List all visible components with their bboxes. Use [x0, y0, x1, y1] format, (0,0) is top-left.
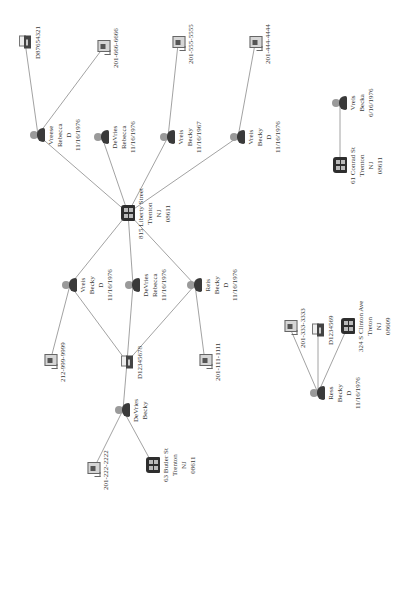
- node-label: ReisBeckyD11/16/1976: [204, 269, 240, 301]
- node-label-line: 08609: [384, 300, 393, 351]
- edge-addr_liberty-p_devries_rebecca_mid: [128, 213, 133, 285]
- node-label: DeVriesBecky: [132, 399, 150, 422]
- person-icon: [125, 277, 141, 293]
- building-icon: [341, 318, 355, 334]
- telephone-icon: [249, 37, 262, 51]
- node-label-line: DeVries: [132, 399, 141, 422]
- node-label: 201-222-2222: [102, 450, 111, 490]
- building-icon: [333, 157, 347, 173]
- telephone-icon: [44, 355, 57, 369]
- node-label-line: Reis: [204, 269, 213, 301]
- node-label-line: Becky: [88, 269, 97, 301]
- node-label-line: 08611: [189, 448, 198, 482]
- node-label-line: Becky: [256, 121, 265, 153]
- telephone-icon: [284, 321, 297, 335]
- node-label: 61 Conrad StTrentonNJ08611: [349, 147, 385, 184]
- node-label-line: D: [345, 377, 354, 409]
- node-label-line: D1234569: [327, 315, 336, 345]
- telephone-icon: [249, 37, 262, 51]
- node-label-line: 201-555-5555: [187, 24, 196, 64]
- node-label-line: 6/16/1976: [367, 89, 376, 117]
- person-icon: [160, 129, 176, 145]
- node-label-line: Treton: [366, 300, 375, 351]
- node-label-line: Vreis: [349, 89, 358, 117]
- node-label-line: 201-222-2222: [102, 450, 111, 490]
- node-label-line: Trenton: [358, 147, 367, 184]
- node-label-line: Becky: [213, 269, 222, 301]
- node-label-line: Ress: [327, 377, 336, 409]
- person-icon: [310, 385, 326, 401]
- node-label-line: NJ: [375, 300, 384, 351]
- fax-document-icon: [312, 324, 324, 337]
- node-label: VreisBeckyD11/16/1976: [79, 269, 115, 301]
- node-label-line: 201-444-4444: [264, 24, 273, 64]
- person-icon: [230, 129, 246, 145]
- node-label-line: NJ: [367, 147, 376, 184]
- telephone-icon: [44, 355, 57, 369]
- person-icon: [62, 277, 78, 293]
- node-label-line: 815 Liberty Street: [137, 188, 146, 239]
- person-icon: [115, 402, 131, 418]
- building-icon: [121, 205, 135, 221]
- node-label-line: 11/16/1976: [74, 119, 83, 151]
- node-label-line: DeVries: [111, 121, 120, 153]
- node-label-line: Trenton: [171, 448, 180, 482]
- node-label-line: DeVries: [142, 269, 151, 301]
- link-analysis-diagram: 815 Liberty StreetTrentonNJ08611 VreeseR…: [0, 0, 416, 589]
- node-label-line: D: [65, 119, 74, 151]
- node-label-line: Vreis: [79, 269, 88, 301]
- building-icon: [333, 157, 347, 173]
- node-label: 212-999-9999: [59, 342, 68, 382]
- node-label: DeVriesRebecca11/16/1976: [111, 121, 138, 153]
- node-label-line: Rebecca: [151, 269, 160, 301]
- fax-document-icon: [121, 356, 133, 369]
- node-label-line: Rebecca: [120, 121, 129, 153]
- telephone-icon: [199, 355, 212, 369]
- node-label-line: 11/16/1976: [274, 121, 283, 153]
- node-label-line: Becka: [358, 89, 367, 117]
- node-label-line: 08611: [164, 188, 173, 239]
- person-icon: [230, 129, 246, 145]
- node-label-line: Vreis: [177, 121, 186, 153]
- node-label: RessBeckyD11/16/1976: [327, 377, 363, 409]
- node-label-line: Becky: [336, 377, 345, 409]
- node-label: 201-333-3333: [299, 308, 308, 348]
- node-label-line: D: [222, 269, 231, 301]
- node-label: 201-666-6666: [112, 28, 121, 68]
- node-label-line: 08611: [376, 147, 385, 184]
- node-label-line: 201-333-3333: [299, 308, 308, 348]
- fax-document-icon: [19, 36, 31, 49]
- node-label-line: 11/16/1976: [354, 377, 363, 409]
- node-label-line: 11/16/1967: [195, 121, 204, 153]
- node-label-line: 201-666-6666: [112, 28, 121, 68]
- node-label-line: 212-999-9999: [59, 342, 68, 382]
- node-label-line: D: [97, 269, 106, 301]
- telephone-icon: [284, 321, 297, 335]
- node-label-line: Trenton: [146, 188, 155, 239]
- fax-document-icon: [121, 356, 133, 369]
- node-label-line: Vreese: [47, 119, 56, 151]
- node-label-line: 11/16/1976: [160, 269, 169, 301]
- building-icon: [146, 457, 160, 473]
- node-label: VreisBecka6/16/1976: [349, 89, 376, 117]
- node-label: VreisBecky11/16/1967: [177, 121, 204, 153]
- person-icon: [187, 277, 203, 293]
- building-icon: [341, 318, 355, 334]
- node-label-line: NJ: [180, 448, 189, 482]
- node-label-line: 201-111-1111: [214, 343, 223, 381]
- person-icon: [160, 129, 176, 145]
- node-label: 201-111-1111: [214, 343, 223, 381]
- node-label-line: D87654321: [34, 25, 43, 58]
- person-icon: [62, 277, 78, 293]
- node-label-line: 11/16/1976: [129, 121, 138, 153]
- building-icon: [146, 457, 160, 473]
- person-icon: [332, 95, 348, 111]
- node-label: 324 S Clinton AveTretonNJ08609: [357, 300, 393, 351]
- node-label-line: Rebecca: [56, 119, 65, 151]
- person-icon: [115, 402, 131, 418]
- fax-document-icon: [312, 324, 324, 337]
- node-label-line: Becky: [141, 399, 150, 422]
- node-label-line: D12345678: [136, 345, 145, 378]
- node-label: DeVriesRebecca11/16/1976: [142, 269, 169, 301]
- telephone-icon: [87, 463, 100, 477]
